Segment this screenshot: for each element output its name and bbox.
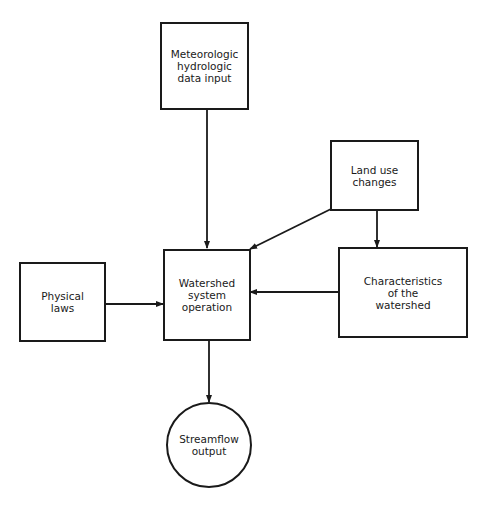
node-characteristics-of-watershed: Characteristics of the watershed: [338, 247, 468, 338]
node-land-use-changes: Land use changes: [330, 140, 419, 211]
node-label: Characteristics of the watershed: [364, 275, 443, 311]
node-meteorologic-hydrologic-data-input: Meteorologic hydrologic data input: [160, 22, 249, 110]
node-label: Physical laws: [41, 290, 84, 314]
node-watershed-system-operation: Watershed system operation: [163, 249, 251, 341]
node-label: Land use changes: [351, 164, 399, 188]
node-label: Streamflow output: [179, 433, 239, 457]
node-label: Watershed system operation: [179, 277, 235, 313]
node-streamflow-output: Streamflow output: [166, 402, 252, 488]
node-label: Meteorologic hydrologic data input: [171, 48, 239, 84]
node-physical-laws: Physical laws: [19, 262, 106, 342]
edge-landuse-to-watershed: [250, 209, 331, 249]
